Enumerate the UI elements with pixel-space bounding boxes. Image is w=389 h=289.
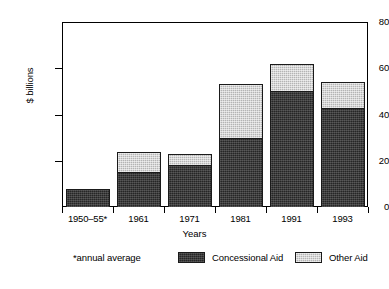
bar-group[interactable]	[66, 189, 110, 208]
bar-group[interactable]	[117, 152, 161, 208]
bar-segment-concessional-aid[interactable]	[117, 172, 161, 207]
chart-legend: Concessional AidOther Aid	[0, 250, 389, 270]
bar-group[interactable]	[270, 64, 314, 207]
y-axis-tick	[55, 115, 62, 116]
bar-segment-other-aid[interactable]	[168, 154, 212, 166]
legend-swatch-conc	[178, 252, 205, 263]
legend-entry[interactable]: Other Aid	[295, 250, 368, 264]
bar-segment-concessional-aid[interactable]	[219, 138, 263, 207]
x-axis-title: Years	[0, 228, 389, 239]
y-axis-tick	[55, 68, 62, 69]
bar-group[interactable]	[321, 82, 365, 207]
bar-segment-other-aid[interactable]	[117, 152, 161, 173]
y-axis-tick	[55, 161, 62, 162]
legend-swatch-other	[295, 252, 322, 263]
x-axis-tick-label: 1993	[303, 213, 383, 224]
bars-layer	[62, 22, 368, 207]
bar-segment-other-aid[interactable]	[270, 64, 314, 92]
bar-segment-concessional-aid[interactable]	[66, 189, 110, 208]
bar-segment-other-aid[interactable]	[219, 84, 263, 137]
legend-label: Concessional Aid	[212, 252, 283, 263]
bar-segment-concessional-aid[interactable]	[270, 91, 314, 207]
bar-group[interactable]	[168, 154, 212, 207]
bar-segment-concessional-aid[interactable]	[168, 165, 212, 207]
legend-label: Other Aid	[329, 252, 368, 263]
chart-figure: 020406080 $ billions 1950–55*19611971198…	[0, 0, 389, 289]
bar-segment-concessional-aid[interactable]	[321, 108, 365, 207]
bar-group[interactable]	[219, 84, 263, 207]
bar-segment-other-aid[interactable]	[321, 82, 365, 107]
legend-entry[interactable]: Concessional Aid	[178, 250, 283, 264]
y-axis-title: $ billions	[24, 41, 35, 131]
